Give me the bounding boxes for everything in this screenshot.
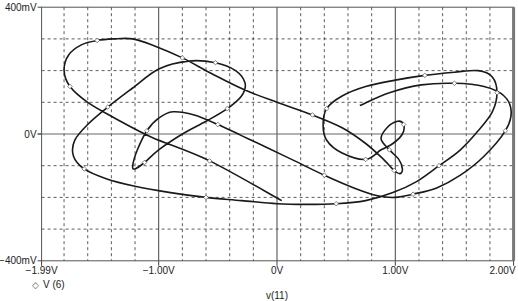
diamond-marker-icon: [363, 157, 368, 162]
x-tick-label: 2.00V: [489, 265, 515, 276]
diamond-marker-icon: [452, 81, 457, 86]
xy-plot: 400mV0V−400mV−1.99V−1.00V0V1.00V2.00V ◇ …: [0, 0, 518, 301]
diamond-marker-icon: [213, 60, 218, 65]
diamond-marker-icon: [334, 201, 339, 206]
plot-grid: [38, 7, 514, 261]
y-tick-label: 400mV: [5, 2, 37, 13]
trace-path: [64, 38, 511, 204]
diamond-marker-icon: [310, 113, 315, 118]
x-tick-label: 0V: [271, 265, 284, 276]
legend: ◇ V (6): [32, 279, 65, 290]
y-tick-label: 0V: [24, 129, 37, 140]
x-tick-label: 1.00V: [382, 265, 408, 276]
trace-v6: [64, 38, 511, 206]
legend-label: V (6): [43, 279, 65, 290]
diamond-marker-icon: [204, 195, 209, 200]
legend-marker-diamond-icon: ◇: [32, 280, 39, 290]
diamond-marker-icon: [423, 73, 428, 78]
x-tick-label: −1.99V: [26, 265, 58, 276]
axis-ticks: 400mV0V−400mV−1.99V−1.00V0V1.00V2.00V: [0, 2, 516, 276]
x-tick-label: −1.00V: [143, 265, 175, 276]
x-axis-title: v(11): [266, 290, 288, 301]
diamond-marker-icon: [411, 192, 416, 197]
diamond-marker-icon: [95, 38, 100, 43]
